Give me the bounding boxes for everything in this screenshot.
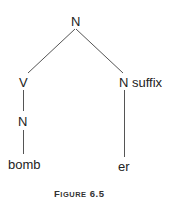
caption-number: 6.5	[90, 188, 105, 199]
node-n-middle: N	[18, 115, 27, 128]
caption-word: IGURE	[60, 190, 86, 199]
node-n-right-label: N	[119, 75, 128, 90]
node-v: V	[19, 76, 28, 89]
leaf-er: er	[118, 160, 130, 173]
node-suffix-annotation: suffix	[132, 75, 162, 90]
leaf-bomb: bomb	[8, 158, 41, 171]
edge-root-to-n-suffix	[76, 29, 123, 73]
node-n-right: N suffix	[119, 76, 162, 89]
node-root: N	[71, 15, 80, 28]
edge-root-to-v	[28, 29, 75, 73]
tree-edges	[0, 0, 174, 210]
figure-caption: FIGURE 6.5	[54, 188, 104, 199]
